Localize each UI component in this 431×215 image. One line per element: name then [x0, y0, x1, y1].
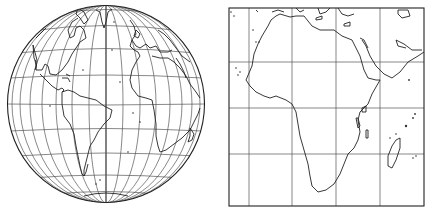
africa-map-frame — [229, 8, 424, 206]
globe-coastlines — [33, 8, 200, 185]
africa-map — [215, 0, 431, 215]
globe-map — [0, 0, 215, 215]
globe-map-panel — [0, 0, 215, 215]
africa-coastlines — [230, 8, 424, 192]
africa-map-panel — [215, 0, 431, 215]
africa-grid — [229, 8, 424, 206]
